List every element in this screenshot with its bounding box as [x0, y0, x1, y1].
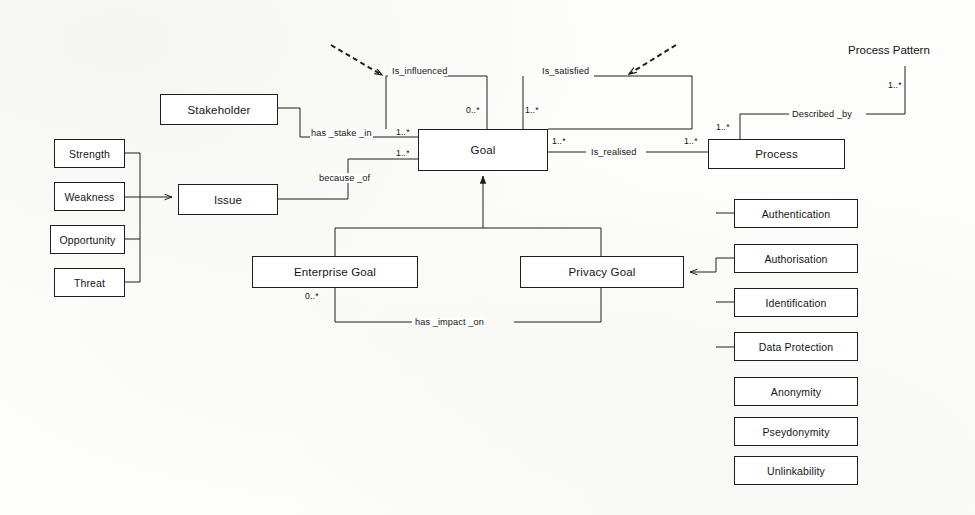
connector-is-satisfied	[523, 76, 692, 129]
multiplicity-stake-goal: 1..*	[396, 127, 410, 137]
node-authentication[interactable]: Authentication	[734, 199, 858, 228]
node-label: Process	[755, 148, 798, 160]
node-opportunity[interactable]: Opportunity	[50, 225, 125, 254]
connector-dashed-influenced	[331, 45, 382, 75]
node-label: Pseydonymity	[762, 426, 829, 438]
edge-label-is-realised: Is_realised	[590, 147, 638, 157]
node-anonymity[interactable]: Anonymity	[734, 377, 858, 406]
node-label: Unlinkability	[767, 465, 825, 477]
multiplicity-enterprise-impact: 0..*	[305, 291, 319, 301]
node-enterprise-goal[interactable]: Enterprise Goal	[252, 256, 418, 288]
node-label: Strength	[69, 148, 110, 160]
multiplicity-influenced-goal: 0..*	[466, 105, 480, 115]
edge-label-has-stake-in: has _stake _in	[310, 128, 373, 138]
multiplicity-realised-process: 1..*	[684, 136, 698, 146]
node-threat[interactable]: Threat	[54, 268, 125, 297]
node-process[interactable]: Process	[708, 139, 845, 169]
connector-swot-bus	[125, 153, 172, 282]
node-label: Anonymity	[771, 386, 821, 398]
connector-generalization	[335, 176, 601, 256]
node-label: Identification	[765, 297, 826, 309]
node-label: Weakness	[64, 191, 114, 203]
connector-dashed-satisfied	[629, 45, 676, 74]
multiplicity-process-described: 1..*	[716, 122, 730, 132]
node-label: Goal	[471, 144, 496, 156]
node-pseydonymity[interactable]: Pseydonymity	[734, 417, 858, 446]
connector-is-influenced	[386, 76, 487, 129]
multiplicity-because-goal: 1..*	[396, 148, 410, 158]
multiplicity-satisfied-goal: 1..*	[525, 105, 539, 115]
node-issue[interactable]: Issue	[178, 184, 278, 215]
edge-label-described-by: Described _by	[791, 109, 853, 119]
connector-privacy-goal-types	[690, 258, 716, 272]
node-label: Issue	[214, 194, 242, 206]
node-label: Authorisation	[764, 253, 827, 265]
connector-privacy-type-stubs	[716, 213, 734, 347]
node-identification[interactable]: Identification	[734, 288, 858, 317]
edge-label-is-satisfied: Is_satisfied	[541, 66, 590, 76]
node-unlinkability[interactable]: Unlinkability	[734, 456, 858, 485]
diagram-canvas: Stakeholder Strength Weakness Opportunit…	[0, 0, 975, 515]
node-label: Data Protection	[759, 341, 834, 353]
process-pattern-label: Process Pattern	[848, 44, 930, 56]
node-label: Authentication	[762, 208, 831, 220]
node-goal[interactable]: Goal	[418, 129, 548, 171]
node-label: Threat	[74, 277, 105, 289]
node-privacy-goal[interactable]: Privacy Goal	[520, 256, 684, 288]
node-label: Opportunity	[60, 234, 116, 246]
node-authorisation[interactable]: Authorisation	[734, 244, 858, 273]
edge-label-because-of: because _of	[318, 173, 371, 183]
edge-label-is-influenced: Is_influenced	[391, 66, 448, 76]
multiplicity-goal-realised: 1..*	[552, 136, 566, 146]
node-stakeholder[interactable]: Stakeholder	[160, 94, 278, 125]
node-label: Enterprise Goal	[294, 266, 376, 278]
connector-process-pattern	[740, 66, 905, 139]
node-data-protection[interactable]: Data Protection	[734, 332, 858, 361]
multiplicity-pattern-described: 1..*	[888, 80, 902, 90]
node-label: Stakeholder	[187, 104, 250, 116]
node-weakness[interactable]: Weakness	[54, 182, 125, 211]
node-strength[interactable]: Strength	[54, 139, 125, 168]
node-label: Privacy Goal	[569, 266, 636, 278]
edge-label-has-impact-on: has _impact _on	[414, 317, 485, 327]
